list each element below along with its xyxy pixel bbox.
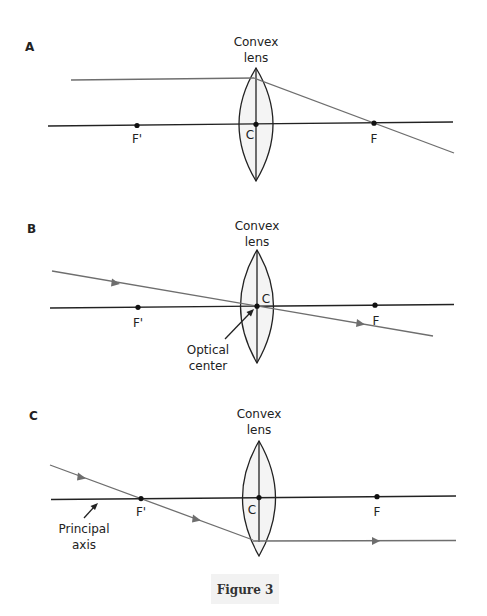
optical-center-label-line1: Optical	[187, 343, 229, 357]
panel-b: B Convex lens F' C F Optical center	[27, 219, 454, 373]
ray-arrow-c-3	[372, 537, 380, 545]
label-focus-c: F	[374, 505, 381, 519]
point-focus-a	[371, 121, 376, 126]
point-f-prime-c	[138, 496, 143, 501]
panel-a: A Convex lens F' C F	[25, 35, 454, 181]
lens-label-a-line1: Convex	[234, 35, 279, 49]
label-f-prime-c: F'	[136, 505, 146, 519]
principal-axis-label-line2: axis	[72, 538, 96, 552]
lens-label-b-line1: Convex	[235, 219, 280, 233]
point-f-prime-a	[134, 123, 139, 128]
emergent-ray-c	[253, 541, 456, 542]
convex-lens-ray-diagram: A Convex lens F' C F B Convex lens F' C …	[0, 0, 487, 616]
lens-label-a-line2: lens	[244, 51, 269, 65]
label-center-a: C	[246, 128, 254, 142]
caption-text: Figure 3	[217, 583, 274, 597]
lens-label-c-line1: Convex	[237, 407, 282, 421]
optical-center-label-line2: center	[189, 359, 228, 373]
incident-ray-a	[71, 78, 254, 80]
point-center-c	[256, 495, 261, 500]
figure-caption: Figure 3	[211, 574, 279, 604]
lens-label-b-line2: lens	[245, 235, 270, 249]
panel-letter-a: A	[25, 40, 35, 54]
label-focus-a: F	[371, 132, 378, 146]
point-focus-b	[372, 303, 377, 308]
ray-arrow-b-2	[356, 319, 365, 327]
label-f-prime-b: F'	[133, 316, 143, 330]
point-center-b	[254, 304, 259, 309]
panel-letter-b: B	[27, 222, 36, 236]
ray-arrow-c-1	[77, 473, 86, 481]
label-focus-b: F	[373, 314, 380, 328]
refracted-ray-a	[254, 78, 454, 153]
ray-arrow-c-2	[192, 515, 201, 523]
principal-axis-pointer-line	[84, 507, 94, 518]
label-center-b: C	[262, 292, 270, 306]
principal-axis-label-line1: Principal	[58, 522, 109, 536]
panel-letter-c: C	[29, 409, 38, 423]
point-focus-c	[374, 494, 379, 499]
lens-label-c-line2: lens	[247, 423, 272, 437]
point-f-prime-b	[135, 305, 140, 310]
panel-c: C Convex lens F' C F Principal axis	[29, 407, 456, 556]
label-f-prime-a: F'	[132, 132, 142, 146]
point-center-a	[253, 122, 258, 127]
label-center-c: C	[248, 503, 256, 517]
